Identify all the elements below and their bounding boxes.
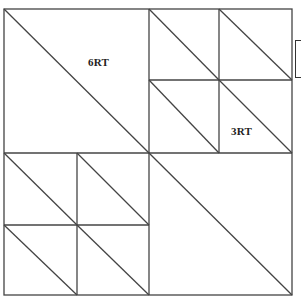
bottom-left-diag-3 [4,225,77,295]
top-left-diagonal [4,9,149,153]
bottom-left-diag-1 [4,153,77,225]
label-3rt: 3RT [231,125,252,137]
top-right-diag-2 [219,9,292,80]
label-6rt: 6RT [88,56,109,68]
top-right-diag-3 [149,80,219,153]
top-right-diag-4 [219,80,292,153]
bottom-right-diagonal [149,153,292,295]
quilt-diagram [0,0,301,303]
top-right-diag-1 [149,9,219,80]
bottom-left-diag-4 [77,225,149,295]
bottom-left-diag-2 [77,153,149,225]
cropped-side-box [295,40,301,78]
